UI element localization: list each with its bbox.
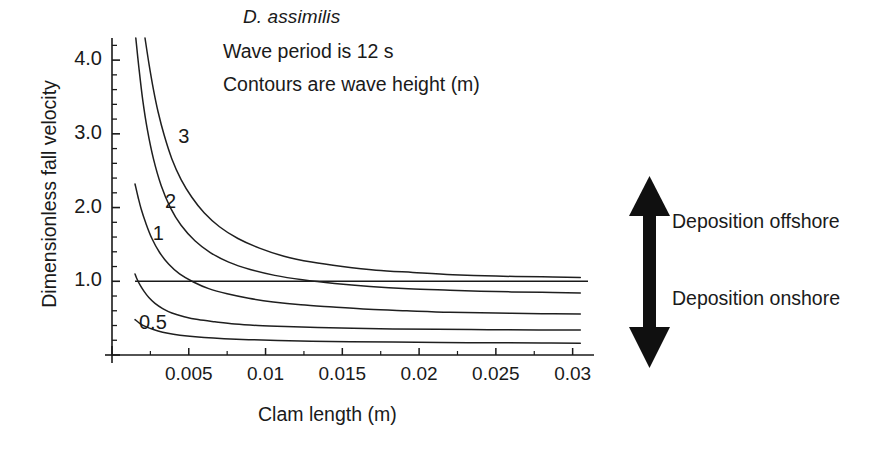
x-tick-label: 0.01 <box>226 363 306 385</box>
contour-curve-0.5 <box>135 274 580 330</box>
deposition-onshore-label: Deposition onshore <box>672 287 840 310</box>
arrow-annotations <box>629 176 670 368</box>
contour-label-2: 2 <box>165 190 176 213</box>
x-tick-label: 0.005 <box>149 363 229 385</box>
annotation-wave-period: Wave period is 12 s <box>223 41 394 63</box>
chart-title: D. assimilis <box>243 6 340 27</box>
x-tick-label: 0.03 <box>533 363 613 385</box>
contour-curve-lowest <box>135 320 580 344</box>
contour-label-1: 1 <box>153 222 164 245</box>
y-tick-label: 2.0 <box>54 195 102 218</box>
contour-label-0.5: 0.5 <box>139 311 167 334</box>
contour-curve-1 <box>135 184 580 314</box>
x-tick-label: 0.025 <box>456 363 536 385</box>
deposition-offshore-arrow <box>629 176 670 288</box>
x-tick-label: 0.02 <box>379 363 459 385</box>
deposition-onshore-arrow <box>629 287 670 368</box>
contour-label-3: 3 <box>178 125 189 148</box>
deposition-offshore-label: Deposition offshore <box>672 210 840 233</box>
x-axis-title: Clam length (m) <box>258 404 397 426</box>
y-tick-label: 1.0 <box>54 268 102 291</box>
y-tick-label: 3.0 <box>54 121 102 144</box>
x-tick-label: 0.015 <box>302 363 382 385</box>
y-tick-label: 4.0 <box>54 47 102 70</box>
figure-root: D. assimilis Wave period is 12 s Contour… <box>0 0 884 461</box>
annotation-contours: Contours are wave height (m) <box>223 74 480 96</box>
